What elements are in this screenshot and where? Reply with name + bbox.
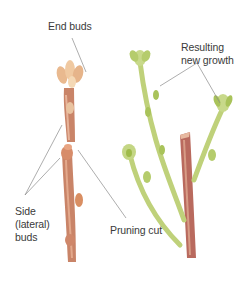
label-resulting-growth: Resulting new growth (181, 41, 234, 67)
label-end-buds: End buds (48, 20, 92, 33)
label-resulting-growth-line2: new growth (181, 54, 234, 67)
lower-twig-with-side-buds (61, 144, 83, 262)
label-side-buds: Side (lateral) buds (15, 205, 50, 244)
leader-side-buds-upper (25, 125, 62, 195)
leader-side-buds-lower (25, 158, 60, 195)
pruning-diagram: End buds Side (lateral) buds Pruning cut… (0, 0, 252, 282)
leader-new-growth (160, 63, 220, 103)
label-side-buds-line1: Side (15, 205, 50, 218)
label-pruning-cut: Pruning cut (110, 224, 162, 237)
new-shoot-right (194, 94, 234, 180)
leader-pruning-cut (78, 150, 126, 218)
label-side-buds-line3: buds (15, 231, 50, 244)
new-shoot-left (128, 49, 184, 220)
pruned-main-stem (180, 132, 196, 258)
label-resulting-growth-line1: Resulting (181, 41, 234, 54)
label-side-buds-line2: (lateral) (15, 218, 50, 231)
